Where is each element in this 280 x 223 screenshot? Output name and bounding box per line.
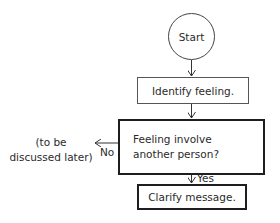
side-note-line1: (to be [8,135,94,150]
side-note-line2: discussed later) [8,150,94,165]
start-label: Start [179,31,205,43]
decision-box: Feeling involve another person? [118,119,265,175]
decision-label: Feeling involve another person? [133,132,253,162]
identify-feeling-box: Identify feeling. [137,77,249,104]
clarify-message-box: Clarify message. [137,184,247,210]
identify-feeling-label: Identify feeling. [152,85,234,97]
start-node: Start [168,13,215,60]
yes-edge-label: Yes [197,172,214,184]
clarify-message-label: Clarify message. [148,191,236,203]
no-edge-label: No [100,146,114,158]
side-note: (to be discussed later) [8,135,94,165]
